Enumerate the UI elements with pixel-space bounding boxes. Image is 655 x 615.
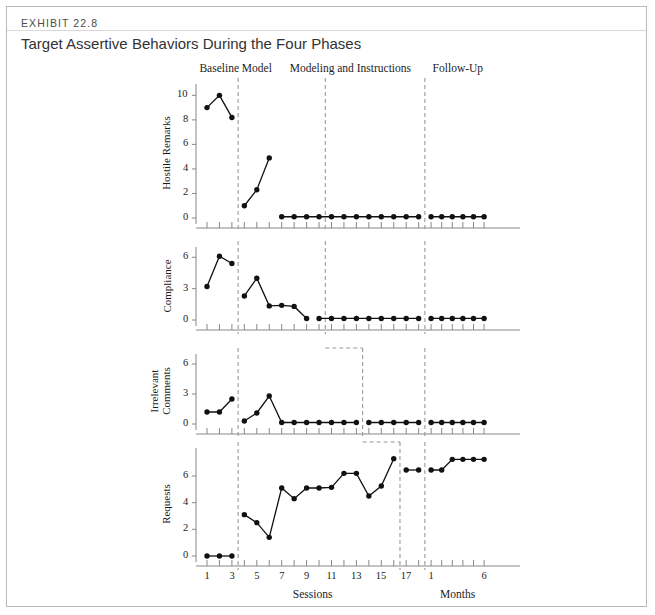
phase-label-baseline: Baseline bbox=[199, 62, 239, 74]
y-tick-label: 2 bbox=[183, 186, 188, 197]
x-tick-label-session-3: 3 bbox=[229, 570, 234, 581]
x-tick-label-month-6: 6 bbox=[482, 570, 487, 581]
data-point bbox=[439, 420, 444, 425]
data-point bbox=[304, 214, 309, 219]
data-point bbox=[254, 410, 259, 415]
data-point bbox=[481, 316, 486, 321]
data-point bbox=[254, 187, 259, 192]
y-tick-label: 6 bbox=[183, 137, 188, 148]
data-point bbox=[217, 254, 222, 259]
series-line bbox=[431, 459, 484, 470]
x-tick-label-session-17: 17 bbox=[401, 570, 412, 581]
data-point bbox=[341, 316, 346, 321]
data-point bbox=[242, 203, 247, 208]
y-tick-label: 0 bbox=[183, 313, 188, 324]
data-point bbox=[242, 418, 247, 423]
y-tick-label: 3 bbox=[183, 387, 188, 398]
data-point bbox=[379, 420, 384, 425]
data-point bbox=[354, 316, 359, 321]
data-point bbox=[254, 275, 259, 280]
y-tick-label: 6 bbox=[183, 469, 188, 480]
data-point bbox=[279, 214, 284, 219]
data-point bbox=[329, 485, 334, 490]
data-point bbox=[366, 493, 371, 498]
data-point bbox=[316, 420, 321, 425]
data-point bbox=[291, 496, 296, 501]
data-point bbox=[279, 420, 284, 425]
y-tick-label: 6 bbox=[183, 357, 188, 368]
data-point bbox=[229, 396, 234, 401]
x-tick-label-session-15: 15 bbox=[376, 570, 387, 581]
data-point bbox=[204, 553, 209, 558]
data-point bbox=[354, 214, 359, 219]
series-line bbox=[207, 95, 232, 117]
series-line bbox=[244, 278, 306, 318]
data-point bbox=[366, 214, 371, 219]
y-tick-label: 0 bbox=[183, 417, 188, 428]
y-tick-label: 10 bbox=[177, 88, 188, 99]
panel-hostile-remarks bbox=[192, 78, 520, 232]
data-point bbox=[354, 471, 359, 476]
data-point bbox=[291, 214, 296, 219]
y-tick-label: 4 bbox=[183, 162, 188, 173]
data-point bbox=[450, 214, 455, 219]
data-point bbox=[416, 214, 421, 219]
data-point bbox=[291, 420, 296, 425]
data-point bbox=[329, 420, 334, 425]
data-point bbox=[267, 303, 272, 308]
data-point bbox=[254, 520, 259, 525]
y-tick-label: 4 bbox=[183, 496, 188, 507]
data-point bbox=[267, 393, 272, 398]
panel-irrelevant-comments bbox=[192, 348, 520, 438]
data-point bbox=[481, 457, 486, 462]
data-point bbox=[460, 420, 465, 425]
panel-compliance bbox=[192, 241, 520, 334]
x-tick-label-session-5: 5 bbox=[254, 570, 259, 581]
data-point bbox=[460, 457, 465, 462]
panel-requests bbox=[192, 442, 520, 570]
y-tick-label: 6 bbox=[183, 250, 188, 261]
data-point bbox=[450, 420, 455, 425]
exhibit-page: EXHIBIT 22.8 Target Assertive Behaviors … bbox=[0, 0, 655, 615]
data-point bbox=[242, 512, 247, 517]
data-point bbox=[481, 420, 486, 425]
y-axis-title-irrelevant-comments: IrrelevantComments bbox=[148, 367, 172, 415]
series-line bbox=[244, 459, 393, 538]
data-point bbox=[391, 420, 396, 425]
x-tick-label-session-9: 9 bbox=[304, 570, 309, 581]
data-point bbox=[204, 284, 209, 289]
y-tick-label: 8 bbox=[183, 113, 188, 124]
data-point bbox=[217, 93, 222, 98]
y-tick-label: 3 bbox=[183, 282, 188, 293]
data-point bbox=[391, 214, 396, 219]
data-point bbox=[391, 316, 396, 321]
y-axis-title-compliance: Compliance bbox=[160, 259, 172, 312]
x-axis-title-months: Months bbox=[440, 588, 475, 600]
data-point bbox=[481, 214, 486, 219]
data-point bbox=[439, 214, 444, 219]
data-point bbox=[428, 420, 433, 425]
data-point bbox=[204, 105, 209, 110]
data-point bbox=[450, 457, 455, 462]
data-point bbox=[428, 467, 433, 472]
data-point bbox=[460, 214, 465, 219]
series-line bbox=[207, 256, 232, 286]
data-point bbox=[316, 316, 321, 321]
data-point bbox=[428, 316, 433, 321]
data-point bbox=[217, 409, 222, 414]
x-tick-label-session-1: 1 bbox=[205, 570, 210, 581]
data-point bbox=[428, 214, 433, 219]
data-point bbox=[316, 214, 321, 219]
data-point bbox=[267, 155, 272, 160]
data-point bbox=[304, 485, 309, 490]
data-point bbox=[379, 483, 384, 488]
data-point bbox=[279, 303, 284, 308]
y-axis-title-hostile-remarks: Hostile Remarks bbox=[160, 116, 172, 190]
data-point bbox=[229, 261, 234, 266]
data-point bbox=[229, 553, 234, 558]
data-point bbox=[229, 115, 234, 120]
phase-label-modeling-and-instructions: Modeling and Instructions bbox=[290, 62, 411, 74]
data-point bbox=[354, 420, 359, 425]
phase-label-model: Model bbox=[242, 62, 272, 74]
data-point bbox=[471, 316, 476, 321]
